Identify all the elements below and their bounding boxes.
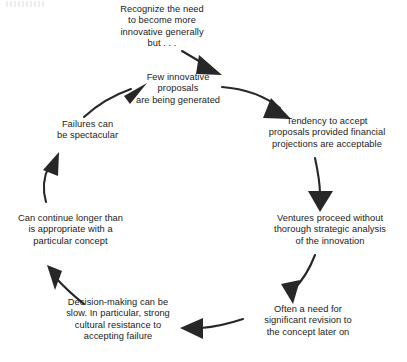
arrow-proposals-to-tendency (222, 87, 291, 119)
node-recognize-need: Recognize the need to become more innova… (112, 4, 212, 50)
node-few-innovative-proposals: Few innovative proposals are being gener… (125, 72, 231, 106)
node-tendency-to-accept: Tendency to accept proposals provided fi… (252, 116, 402, 150)
cycle-diagram: Recognize the need to become more innova… (0, 0, 407, 362)
node-ventures-proceed: Ventures proceed without thorough strate… (256, 213, 404, 247)
arrow-head (281, 280, 300, 304)
arrow-revision-to-decision (180, 318, 243, 339)
arrow-stem (201, 319, 243, 328)
node-can-continue-longer: Can continue longer than is appropriate … (3, 213, 138, 247)
node-failures-spectacular: Failures can be spectacular (41, 119, 134, 142)
arrow-tendency-to-ventures (308, 158, 333, 212)
arrow-stem (84, 89, 131, 117)
arrow-head (47, 265, 62, 290)
arrow-continue-to-failures (43, 152, 59, 202)
arrow-head (308, 191, 333, 212)
arrow-ventures-to-revision (281, 255, 315, 304)
node-decision-making-slow: Decision-making can be slow. In particul… (48, 297, 188, 343)
node-need-for-revision: Often a need for significant revision to… (243, 304, 373, 338)
arrow-stem (315, 158, 320, 194)
